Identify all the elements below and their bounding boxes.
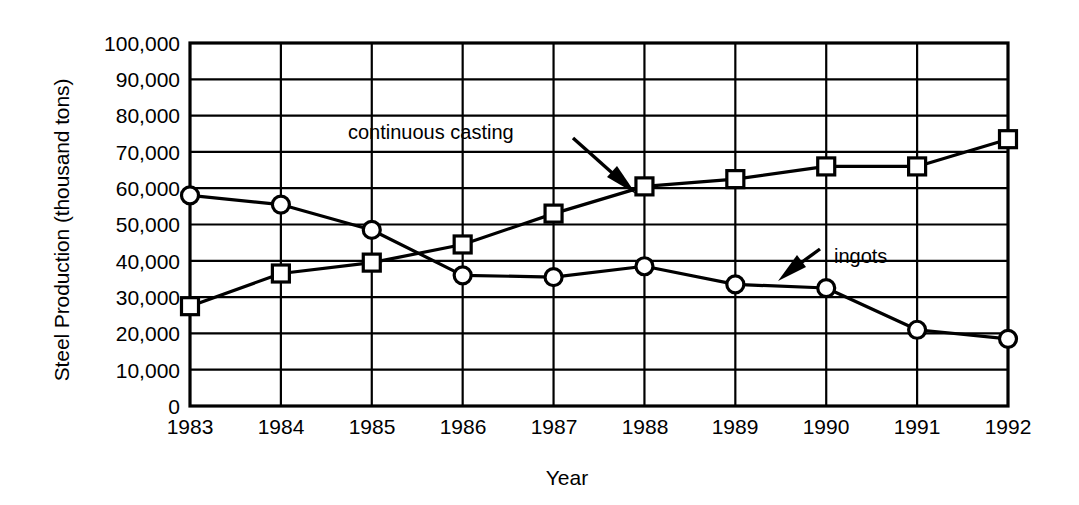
data-point-square: [636, 178, 653, 195]
data-point-square: [363, 254, 380, 271]
plot-area: [0, 0, 1079, 505]
data-point-circle: [182, 187, 199, 204]
data-point-square: [909, 158, 926, 175]
arrow-continuous-casting: [573, 138, 636, 194]
data-point-square: [1000, 131, 1017, 148]
arrow-ingots: [778, 249, 820, 281]
data-point-square: [454, 236, 471, 253]
data-point-circle: [363, 221, 380, 238]
chart-canvas: Steel Production (thousand tons) 100,000…: [0, 0, 1079, 505]
data-point-circle: [272, 196, 289, 213]
data-point-circle: [1000, 330, 1017, 347]
data-point-circle: [636, 258, 653, 275]
data-point-circle: [727, 276, 744, 293]
data-point-square: [727, 171, 744, 188]
series-continuous-casting: [182, 131, 1017, 315]
data-point-circle: [818, 280, 835, 297]
data-point-circle: [909, 321, 926, 338]
series-ingots: [182, 187, 1017, 347]
data-point-square: [545, 205, 562, 222]
data-point-square: [182, 298, 199, 315]
data-point-square: [272, 265, 289, 282]
data-point-circle: [454, 267, 471, 284]
data-point-circle: [545, 269, 562, 286]
gridlines: [190, 43, 1008, 406]
data-point-square: [818, 158, 835, 175]
series-line: [190, 139, 1008, 306]
annotation-arrows: [573, 138, 820, 281]
series-line: [190, 195, 1008, 338]
